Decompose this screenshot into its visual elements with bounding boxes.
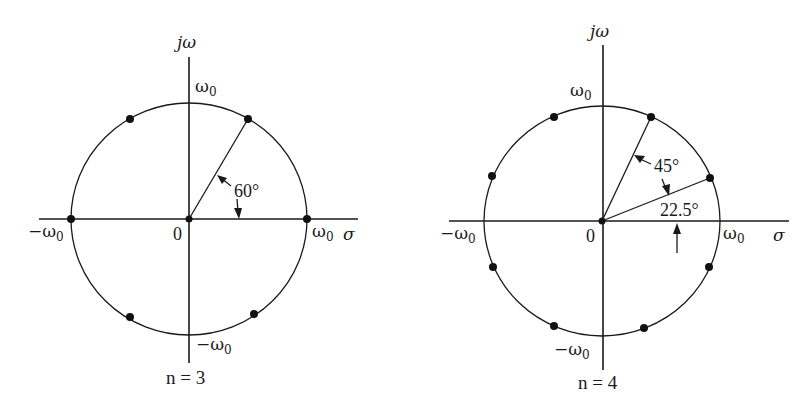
origin-dot (599, 218, 606, 225)
neg-omega0-left-label: −ω0 (440, 223, 476, 246)
angle-label-45: 45° (654, 156, 679, 176)
pole-dot (250, 310, 258, 318)
omega0-top-label: ω0 (195, 76, 217, 99)
sigma-axis-label: σ (773, 225, 785, 245)
pole-dot (647, 113, 655, 121)
origin-label: 0 (586, 226, 595, 246)
pole-dot (244, 115, 252, 123)
pole-dot (489, 263, 497, 271)
angle-label-60: 60° (234, 181, 259, 201)
jomega-axis-label: jω (173, 32, 196, 52)
caption-n4: n = 4 (578, 372, 618, 393)
arrow-head-icon (634, 155, 645, 163)
pole-dot (126, 313, 134, 321)
sigma-axis-label: σ (343, 224, 355, 244)
arrow-head-icon (673, 223, 681, 234)
diagram-n3: jω σ ω0 −ω0 −ω0 ω0 0 60° n = 3 (28, 32, 358, 388)
pole-dot (705, 263, 713, 271)
diagram-n4: jω σ ω0 −ω0 −ω0 ω0 0 45° 22.5° n = 4 (440, 21, 789, 393)
arrow-head-icon (662, 184, 670, 196)
omega0-right-label: ω0 (312, 221, 334, 244)
neg-omega0-bottom-label: −ω0 (196, 334, 232, 357)
pole-dot (550, 322, 558, 330)
angle-label-22-5: 22.5° (660, 200, 699, 220)
neg-omega0-left-label: −ω0 (28, 221, 64, 244)
omega0-right-label: ω0 (723, 223, 745, 246)
arrow-head-icon (217, 175, 227, 184)
poles (488, 113, 714, 332)
pole-diagram-figure: jω σ ω0 −ω0 −ω0 ω0 0 60° n = 3 (0, 0, 807, 414)
pole-dot (706, 174, 714, 182)
pole-dot (67, 215, 75, 223)
radial-line-60 (189, 119, 248, 219)
omega0-top-label: ω0 (570, 80, 592, 103)
origin-dot (186, 216, 193, 223)
pole-dot (488, 172, 496, 180)
pole-dot (126, 115, 134, 123)
pole-dot (303, 215, 311, 223)
pole-dot (550, 113, 558, 121)
radial-line-67-5 (602, 117, 651, 221)
neg-omega0-bottom-label: −ω0 (554, 339, 590, 362)
caption-n3: n = 3 (166, 367, 205, 388)
origin-label: 0 (173, 224, 182, 244)
arrow-head-icon (234, 208, 242, 219)
jomega-axis-label: jω (586, 21, 609, 41)
pole-dot (640, 324, 648, 332)
